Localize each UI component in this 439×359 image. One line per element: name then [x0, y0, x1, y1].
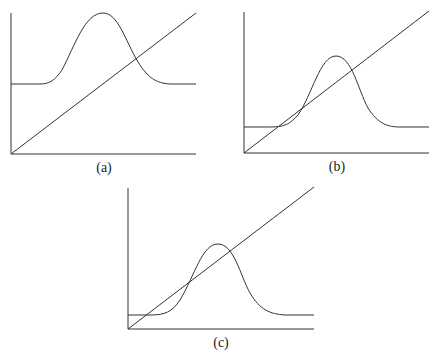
panel-a-bell-curve [11, 13, 196, 84]
panel-a [11, 13, 196, 154]
panel-c-diagonal-line [128, 187, 314, 329]
panel-b-diagonal-line [244, 11, 429, 153]
panel-c [128, 187, 314, 329]
panel-b-label: (b) [329, 159, 345, 175]
panel-b [244, 11, 429, 153]
figure [0, 0, 439, 359]
panel-c-bell-curve [128, 244, 314, 315]
panel-c-label: (c) [213, 335, 229, 351]
panel-a-label: (a) [96, 160, 112, 176]
panel-b-bell-curve [244, 56, 429, 127]
